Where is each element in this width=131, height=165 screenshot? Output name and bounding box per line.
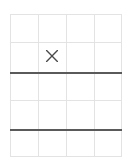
grid-line-h-2 <box>10 72 122 74</box>
grid-line-v-3 <box>94 14 95 157</box>
grid-line-v-0 <box>10 14 11 157</box>
grid-line-v-1 <box>38 14 39 157</box>
grid-area <box>10 14 122 157</box>
grid-canvas <box>0 0 131 165</box>
grid-line-h-4 <box>10 129 122 131</box>
grid-line-v-4 <box>121 14 122 157</box>
grid-line-v-2 <box>66 14 67 157</box>
x-mark <box>44 48 60 64</box>
